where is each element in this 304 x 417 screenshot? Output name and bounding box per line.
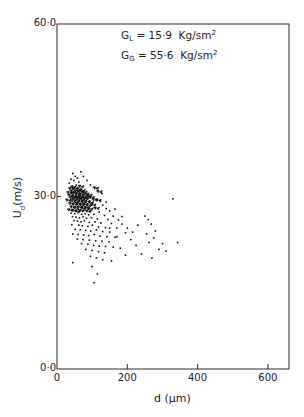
y-axis-label: Ud(m/s) bbox=[11, 173, 26, 223]
data-point bbox=[105, 227, 107, 229]
data-point bbox=[116, 236, 118, 238]
x-tick-label: 600 bbox=[258, 372, 277, 383]
data-point bbox=[70, 206, 72, 207]
data-point bbox=[100, 199, 102, 200]
data-point bbox=[88, 197, 90, 198]
data-point bbox=[85, 207, 87, 208]
data-point bbox=[68, 194, 70, 195]
data-point bbox=[95, 207, 97, 209]
data-point bbox=[137, 224, 139, 226]
data-point bbox=[85, 201, 87, 202]
data-point bbox=[72, 262, 74, 264]
data-point bbox=[98, 207, 100, 208]
data-point bbox=[155, 230, 157, 232]
data-point bbox=[95, 204, 97, 205]
data-point bbox=[91, 224, 93, 226]
data-point bbox=[80, 221, 82, 223]
data-point bbox=[162, 243, 164, 245]
data-point bbox=[92, 208, 94, 209]
data-point bbox=[100, 222, 102, 224]
data-point bbox=[84, 200, 86, 201]
data-point bbox=[97, 188, 99, 189]
data-point bbox=[83, 197, 85, 198]
data-point bbox=[70, 199, 72, 200]
data-point bbox=[95, 240, 97, 242]
data-point bbox=[153, 237, 155, 239]
data-point bbox=[99, 200, 101, 201]
data-point bbox=[74, 213, 76, 215]
data-point bbox=[72, 193, 74, 194]
data-point bbox=[172, 198, 174, 200]
data-point bbox=[151, 257, 153, 259]
data-point bbox=[127, 227, 129, 229]
data-point bbox=[114, 208, 116, 210]
data-point bbox=[77, 177, 79, 179]
data-point bbox=[86, 210, 88, 212]
data-point bbox=[70, 202, 72, 204]
data-point bbox=[84, 189, 86, 190]
data-point bbox=[98, 251, 100, 253]
data-point bbox=[94, 234, 96, 236]
data-point bbox=[101, 190, 103, 191]
data-point bbox=[86, 211, 88, 212]
data-point bbox=[112, 215, 114, 217]
data-point bbox=[79, 186, 81, 187]
data-point bbox=[86, 191, 88, 192]
data-point bbox=[93, 214, 95, 216]
data-point bbox=[89, 239, 91, 241]
annotation-gl: GL = 15·9 Kg/sm2 bbox=[121, 29, 216, 43]
data-point bbox=[85, 210, 87, 211]
data-point bbox=[70, 190, 72, 191]
data-point bbox=[97, 191, 99, 192]
data-point bbox=[88, 235, 90, 237]
data-point bbox=[111, 223, 113, 225]
data-point bbox=[87, 199, 89, 200]
data-point bbox=[105, 246, 107, 248]
data-point bbox=[73, 206, 75, 207]
data-point bbox=[84, 220, 86, 222]
data-point bbox=[121, 223, 123, 225]
data-point bbox=[132, 231, 134, 233]
data-point bbox=[85, 249, 87, 251]
data-point bbox=[68, 191, 70, 193]
data-point bbox=[97, 187, 99, 188]
data-point bbox=[75, 202, 77, 203]
data-point bbox=[66, 200, 68, 201]
data-point bbox=[146, 233, 148, 235]
data-point bbox=[96, 200, 98, 201]
data-point bbox=[67, 209, 69, 210]
data-point bbox=[94, 221, 96, 223]
data-point bbox=[84, 206, 86, 207]
data-point bbox=[79, 185, 81, 187]
annotation-gg: GG = 55·6 Kg/sm2 bbox=[121, 49, 217, 63]
data-point bbox=[85, 230, 87, 232]
data-point bbox=[96, 190, 98, 191]
data-point bbox=[83, 234, 85, 236]
data-point bbox=[148, 242, 150, 244]
data-point bbox=[71, 209, 73, 210]
data-point bbox=[82, 239, 84, 241]
data-point bbox=[82, 211, 84, 212]
data-point bbox=[82, 225, 84, 227]
data-point bbox=[77, 220, 79, 222]
data-point bbox=[125, 232, 127, 234]
data-point bbox=[78, 201, 80, 202]
data-point bbox=[86, 180, 88, 182]
data-point bbox=[81, 214, 83, 216]
data-point bbox=[68, 202, 70, 203]
data-point bbox=[73, 204, 75, 205]
data-point bbox=[69, 189, 71, 190]
data-point bbox=[78, 181, 80, 183]
data-point bbox=[118, 219, 120, 221]
x-axis-label: d (µm) bbox=[154, 392, 191, 405]
data-point bbox=[76, 184, 78, 186]
data-point bbox=[90, 256, 92, 258]
data-point bbox=[82, 187, 84, 188]
data-point bbox=[71, 206, 73, 208]
data-point bbox=[70, 178, 72, 180]
data-point bbox=[144, 215, 146, 217]
data-point bbox=[69, 196, 71, 197]
data-point bbox=[150, 223, 152, 225]
data-point bbox=[85, 195, 87, 196]
data-point bbox=[81, 200, 83, 201]
